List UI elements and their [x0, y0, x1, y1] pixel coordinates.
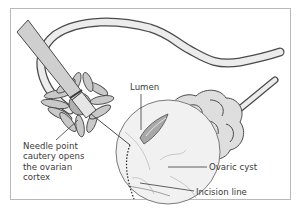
- label-needle-point-cautery: Needle point cautery opens the ovarian c…: [23, 141, 103, 183]
- label-needle-line-1: Needle point: [23, 141, 103, 151]
- label-incision-line: Incision line: [196, 187, 247, 197]
- label-ovarian-cyst: Ovaric cyst: [209, 162, 257, 172]
- label-needle-line-3: the ovarian: [23, 162, 103, 172]
- label-lumen: Lumen: [130, 82, 159, 92]
- label-needle-line-2: cautery opens: [23, 151, 103, 161]
- label-needle-line-4: cortex: [23, 172, 103, 182]
